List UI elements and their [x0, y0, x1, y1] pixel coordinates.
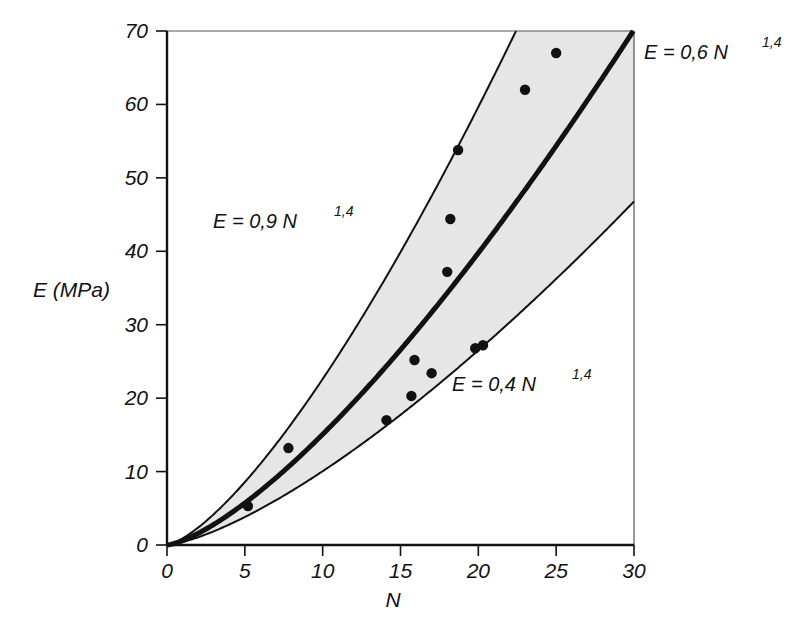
data-point [283, 443, 293, 453]
x-axis-tick-label: 15 [389, 559, 413, 582]
x-axis-tick-label: 10 [311, 559, 335, 582]
data-point [520, 85, 530, 95]
y-axis-tick-label: 10 [125, 460, 149, 483]
y-axis-tick-label: 0 [136, 533, 148, 556]
x-axis-tick-label: 30 [622, 559, 646, 582]
data-point [445, 214, 455, 224]
label-central-curve-exponent: 1,4 [762, 34, 782, 50]
data-point [551, 48, 561, 58]
data-point [406, 391, 416, 401]
x-axis-tick-label: 20 [466, 559, 491, 582]
data-point [442, 267, 452, 277]
label-central-curve-text: E = 0,6 N [644, 41, 728, 63]
y-axis-tick-label: 20 [124, 386, 149, 409]
x-axis-tick-label: 25 [543, 559, 568, 582]
data-point [381, 415, 391, 425]
x-axis-title: N [385, 588, 401, 611]
x-axis-tick-label: 0 [161, 559, 173, 582]
y-axis-tick-label: 70 [125, 19, 149, 42]
data-point [243, 501, 253, 511]
y-axis-title: E (MPa) [33, 278, 110, 301]
y-axis-tick-label: 40 [125, 239, 149, 262]
data-point [409, 355, 419, 365]
label-upper-curve-exponent: 1,4 [334, 203, 354, 219]
label-lower-curve-text: E = 0,4 N [452, 373, 536, 395]
x-axis-tick-label: 5 [239, 559, 251, 582]
data-point [426, 368, 436, 378]
y-axis-tick-label: 60 [125, 92, 149, 115]
label-upper-curve-text: E = 0,9 N [213, 210, 297, 232]
label-lower-curve-exponent: 1,4 [572, 366, 592, 382]
data-point [453, 145, 463, 155]
y-axis-tick-label: 30 [125, 313, 149, 336]
chart-figure: 010203040506070 051015202530 E (MPa) N E… [0, 0, 795, 632]
y-axis-tick-label: 50 [125, 166, 149, 189]
data-point [478, 340, 488, 350]
